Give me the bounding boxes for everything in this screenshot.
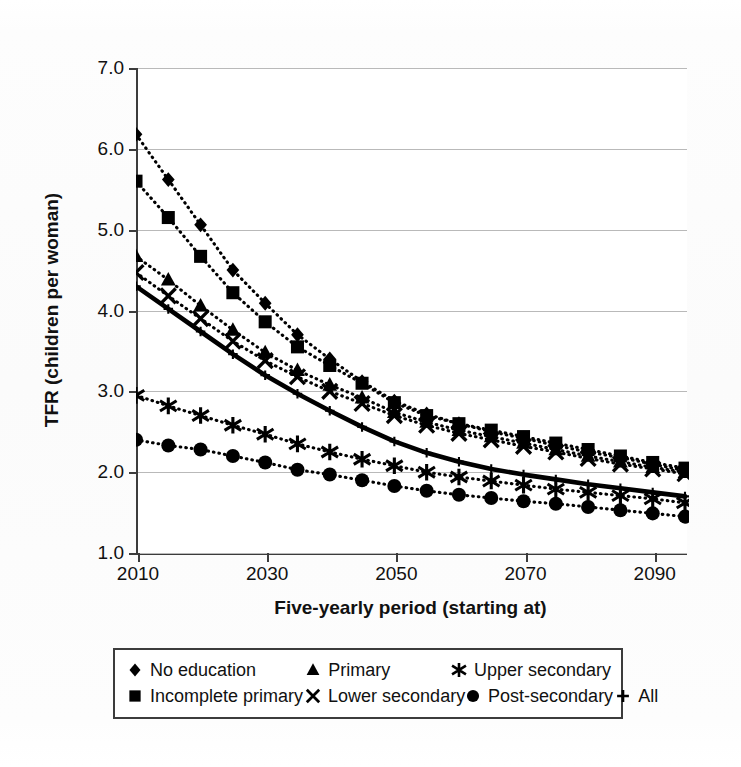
legend-row: No educationPrimaryUpper secondary [125,657,611,683]
diamond-marker [125,660,145,680]
legend-item-label: Incomplete primary [150,686,303,707]
chart-legend: No educationPrimaryUpper secondary Incom… [113,648,623,719]
legend-item-label: Post-secondary [488,686,613,707]
circle-marker [463,686,483,706]
legend-item-label: No education [150,660,256,681]
legend-item-post-secondary[interactable]: Post-secondary [463,686,613,707]
legend-item-label: All [638,686,658,707]
legend-item-primary[interactable]: Primary [303,660,449,681]
series-primary [129,249,693,478]
legend-item-incomplete-primary[interactable]: Incomplete primary [125,686,303,707]
legend-item-label: Upper secondary [474,660,611,681]
legend-item-label: Primary [328,660,390,681]
legend-row: Incomplete primaryLower secondaryPost-se… [125,683,611,709]
square-marker [125,686,145,706]
cross-marker [303,686,323,706]
triangle-marker [303,660,323,680]
tfr-projection-figure: TFR (children per woman) Five-yearly per… [0,0,741,767]
plus-marker [613,686,633,706]
series-incomplete-primary [129,175,691,475]
series-no-education [130,127,692,478]
legend-item-upper-secondary[interactable]: Upper secondary [449,660,611,681]
legend-item-label: Lower secondary [328,686,465,707]
legend-item-lower-secondary[interactable]: Lower secondary [303,686,463,707]
legend-item-all[interactable]: All [613,686,658,707]
legend-item-no-education[interactable]: No education [125,660,303,681]
asterisk-marker [449,660,469,680]
